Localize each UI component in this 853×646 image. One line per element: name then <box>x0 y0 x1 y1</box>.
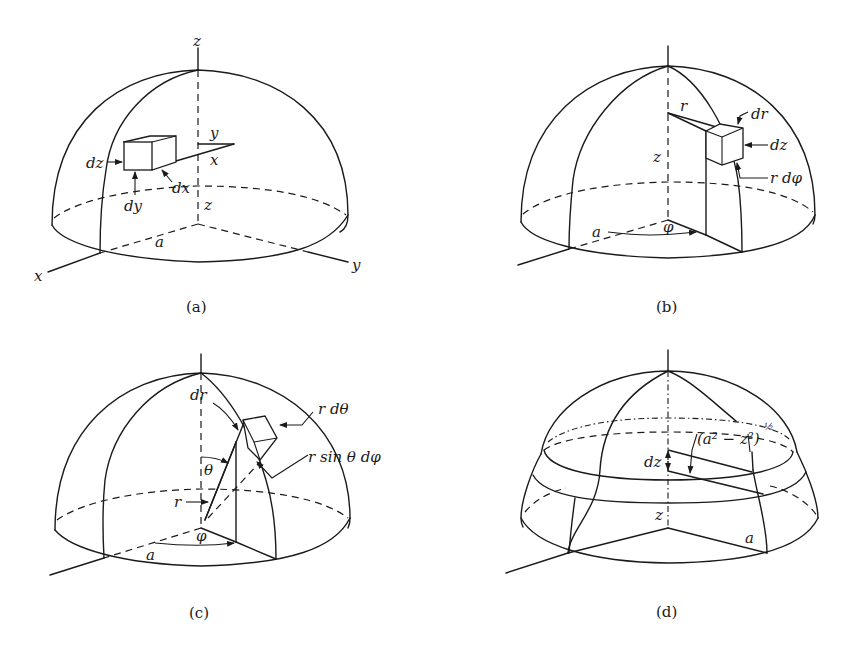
x-axis-solid <box>50 558 104 575</box>
label-dy: dy <box>124 197 143 215</box>
label-phi: φ <box>663 218 674 236</box>
x-axis-solid <box>518 249 569 265</box>
hemisphere-right-side <box>797 452 818 518</box>
label-r-sin-theta-dphi: r sin θ dφ <box>308 448 381 466</box>
label-y-axis: y <box>351 256 361 274</box>
meridian-right-upper <box>668 371 736 421</box>
base-front-arc <box>521 518 818 563</box>
label-radius-a: a <box>155 233 164 251</box>
label-dz: dz <box>86 154 104 172</box>
panel-d-slab-element: dz (a² − z²) ½ z a (d) <box>506 350 818 621</box>
caption-d: (d) <box>656 603 677 621</box>
label-ring-radius-exponent: ½ <box>764 421 774 432</box>
base-back-arc-right <box>770 486 818 518</box>
label-z-height: z <box>654 506 663 524</box>
panel-b-cylindrical-element: r z a φ dr dz r dφ (b) <box>518 46 815 316</box>
label-dx: dx <box>172 179 191 197</box>
ring-radius-top <box>668 450 752 472</box>
label-dr: dr <box>190 386 208 404</box>
x-axis-dashed <box>100 224 198 253</box>
base-back-arc <box>525 488 566 512</box>
label-r: r <box>680 97 688 115</box>
label-inner-y: y <box>209 124 219 142</box>
hemisphere-outline <box>52 70 348 232</box>
label-radius-a: a <box>146 546 155 564</box>
label-inner-x: x <box>210 151 219 169</box>
radial-base-line-ext <box>706 235 742 252</box>
meridian-left <box>103 373 201 558</box>
label-z-axis: z <box>192 32 201 50</box>
label-z-height: z <box>203 196 212 214</box>
y-axis-dashed <box>198 224 308 252</box>
label-ring-radius: (a² − z²) <box>697 430 760 448</box>
panel-a-cartesian-element: z x y a z y x dx dy dz (a) <box>34 32 361 316</box>
label-r-dtheta: r dθ <box>318 400 349 418</box>
label-theta: θ <box>204 461 213 479</box>
label-dr: dr <box>751 105 769 123</box>
volume-element-box <box>243 416 277 460</box>
label-x-axis: x <box>34 267 43 285</box>
label-radius-a: a <box>592 223 601 241</box>
x-axis-solid <box>48 253 100 272</box>
volume-element-box <box>706 124 743 165</box>
label-r: r <box>174 493 182 511</box>
meridian-left-lower <box>569 498 575 553</box>
label-z-height: z <box>652 148 661 166</box>
x-axis-solid <box>506 553 568 573</box>
y-axis-solid <box>308 252 348 262</box>
label-dz: dz <box>770 136 788 154</box>
volume-element-box <box>124 136 176 170</box>
hemisphere-left-side <box>521 454 541 527</box>
meridian-right-mid <box>752 452 753 470</box>
label-dz: dz <box>644 453 662 471</box>
label-radius-a: a <box>745 529 754 547</box>
caption-b: (b) <box>656 298 677 316</box>
slab-bottom-front <box>533 472 806 503</box>
caption-a: (a) <box>186 298 207 316</box>
x-axis-inner <box>568 528 668 553</box>
caption-c: (c) <box>189 604 209 622</box>
label-phi: φ <box>196 527 207 545</box>
base-back-arc <box>57 489 348 520</box>
meridian-right-lower <box>753 470 767 553</box>
r-line-dashed <box>208 462 260 518</box>
panel-c-spherical-element: dr r dθ r sin θ dφ θ r φ a (c) <box>50 354 381 622</box>
radial-base-line-ext <box>236 542 276 559</box>
label-r-dphi: r dφ <box>770 169 803 187</box>
base-back-arc <box>54 186 346 218</box>
figure-canvas: z x y a z y x dx dy dz (a) <box>0 0 853 646</box>
